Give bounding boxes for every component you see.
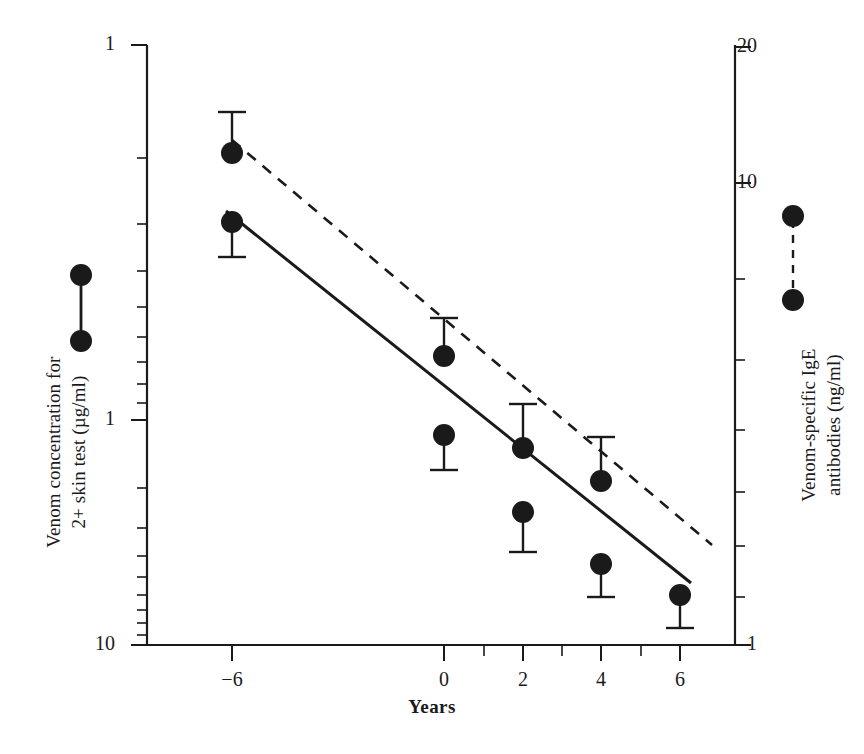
figure-container: 1 1 10 20 10 1 −6 0 2 4 6 Venom concentr… [0,0,864,754]
ige-data-point [590,470,612,492]
x-axis-ticks [232,645,680,661]
right-axis-tick-label-bottom: 1 [697,632,757,655]
x-axis-minor-ticks [484,645,641,656]
left-axis-tick-label-top: 1 [55,32,115,55]
right-axis-ticks [735,47,751,645]
x-axis-tick-label-0: 0 [414,668,474,691]
right-axis-minor-ticks [735,279,745,597]
left-axis-tick-label-bottom: 10 [55,632,115,655]
right-axis-title: Venom-specific IgE antibodies (ng/ml) [796,280,846,570]
right-axis-tick-label-mid: 10 [697,170,757,193]
venom-data-points [221,211,691,606]
right-axis-title-line1: Venom-specific IgE [796,280,821,570]
venom-concentration-series [218,211,694,628]
left-axis-title-line1: Venom concentration for [41,307,66,597]
ige-data-point [433,345,455,367]
axis-spines [147,45,735,645]
legend-dot [70,264,92,286]
x-axis-tick-label-minus6: −6 [202,668,262,691]
x-axis-tick-label-6: 6 [650,668,710,691]
right-axis-title-line2: antibodies (ng/ml) [821,280,846,570]
ige-data-points [221,142,612,492]
venom-data-point [669,584,691,606]
left-axis-title-line2: 2+ skin test (µg/ml) [66,307,91,597]
x-axis-tick-label-2: 2 [493,668,553,691]
left-axis-minor-ticks [137,158,147,635]
legend-dot [782,205,804,227]
venom-data-point [221,211,243,233]
ige-fit-line [232,140,712,545]
venom-data-point [433,424,455,446]
ige-data-point [221,142,243,164]
x-axis-title: Years [0,694,864,719]
ige-antibodies-series [218,112,712,545]
venom-error-bars [218,222,694,628]
right-axis-tick-label-top: 20 [697,34,757,57]
venom-fit-line [226,211,691,583]
venom-data-point [590,553,612,575]
left-axis-ticks [131,45,147,645]
x-axis-tick-label-4: 4 [571,668,631,691]
venom-data-point [512,501,534,523]
left-axis-title: Venom concentration for 2+ skin test (µg… [41,307,91,597]
